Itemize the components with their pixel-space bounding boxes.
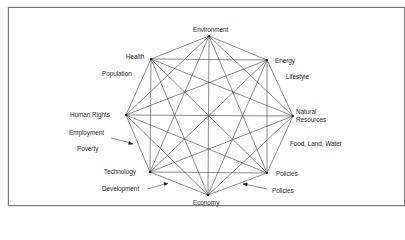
edge-label-food-land-water: Food, Land, Water <box>290 140 342 147</box>
node-dot-policies-node <box>266 172 268 174</box>
edge-energy-economy <box>208 60 267 195</box>
node-dot-natural-resources <box>292 115 294 117</box>
edge-environment-natural-resources <box>209 36 293 116</box>
development-arrowhead-icon <box>164 182 168 185</box>
edge-energy-natural-resources <box>267 60 293 116</box>
edge-technology-health <box>150 59 151 172</box>
edge-natural-resources-health <box>151 59 293 116</box>
node-label-technology: Technology <box>104 168 136 175</box>
edge-policies-node-technology <box>150 172 267 173</box>
edge-label-development: Development <box>102 185 139 192</box>
node-dot-energy <box>266 59 268 61</box>
node-dot-human-rights <box>125 114 127 116</box>
employment-arrowhead-icon <box>129 142 133 145</box>
edge-label-poverty: Poverty <box>77 145 98 152</box>
node-dot-technology <box>149 171 151 173</box>
edge-label-lifestyle: Lifestyle <box>286 73 309 80</box>
node-label-policies: Policies <box>276 170 298 177</box>
development-arrow <box>147 184 165 189</box>
policies-edge-arrow <box>246 185 267 190</box>
edge-economy-technology <box>150 172 208 195</box>
edge-policies-node-economy <box>208 173 267 195</box>
edge-environment-technology <box>150 36 209 172</box>
edge-label-population: Population <box>102 70 132 77</box>
node-dot-economy <box>207 194 209 196</box>
node-label-health: Health <box>126 53 144 60</box>
edge-label-policies: Policies <box>272 187 294 194</box>
edge-label-employment: Employment <box>69 129 104 136</box>
edge-economy-health <box>151 59 208 195</box>
employment-arrow <box>111 138 131 143</box>
node-label-human-rights: Human Rights <box>70 111 110 118</box>
node-label-natural-resources-line1: Natural <box>296 108 316 115</box>
node-dot-health <box>150 58 152 60</box>
node-label-environment: Environment <box>193 26 228 33</box>
node-label-economy: Economy <box>193 199 219 206</box>
node-label-energy: Energy <box>275 57 295 64</box>
node-label-natural-resources-line2: Resources <box>296 116 326 123</box>
policies-edge-arrowhead-icon <box>243 183 247 186</box>
node-dot-environment <box>208 35 210 37</box>
